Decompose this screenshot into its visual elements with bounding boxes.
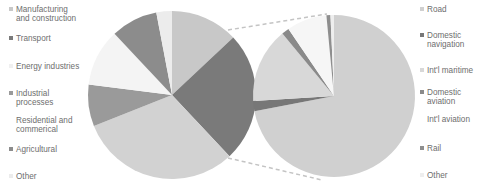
legend-item-other: Other <box>9 172 36 181</box>
transport-pie <box>253 15 415 177</box>
legend-item-energy-industries: Energy industries <box>9 62 79 71</box>
legend-item-other-transport: Other <box>420 171 447 180</box>
legend-swatch <box>420 173 424 177</box>
legend-label-line2: and construction <box>16 14 76 23</box>
legend-label-line2: navigation <box>427 40 464 49</box>
legend-label: Int'l maritime <box>427 66 473 75</box>
legend-label: Road <box>427 5 447 14</box>
legend-label: Industrial <box>16 89 49 98</box>
legend-swatch <box>9 91 13 95</box>
legend-item-industrial-processes: Industrialprocesses <box>9 89 53 107</box>
legend-item-domestic-navigation: Domesticnavigation <box>420 31 464 49</box>
legend-item-manufacturing: Manufacturingand construction <box>9 5 76 23</box>
legend-label: Rail <box>427 144 441 153</box>
legend-item-transport: Transport <box>9 34 51 43</box>
legend-label: Energy industries <box>16 62 79 71</box>
legend-item-intl-maritime: Int'l maritime <box>420 66 473 75</box>
legend-swatch <box>9 147 13 151</box>
legend-item-road: Road <box>420 5 447 14</box>
legend-label-line2: processes <box>16 98 53 107</box>
legend-swatch <box>9 118 13 122</box>
legend-label: Agricultural <box>16 145 57 154</box>
legend-label-line2: commerical <box>16 125 58 134</box>
legend-label: Transport <box>16 34 51 43</box>
legend-swatch <box>9 36 13 40</box>
legend-swatch <box>420 33 424 37</box>
legend-swatch <box>420 117 424 121</box>
legend-swatch <box>420 7 424 11</box>
legend-item-domestic-aviation: Domesticaviation <box>420 88 461 106</box>
legend-swatch <box>9 64 13 68</box>
legend-label: Int'l aviation <box>427 115 470 124</box>
legend-left: Manufacturingand construction Transport … <box>0 0 140 186</box>
legend-right: Road Domesticnavigation Int'l maritime D… <box>420 0 482 186</box>
legend-item-agricultural: Agricultural <box>9 145 57 154</box>
legend-label: Manufacturing <box>16 5 68 14</box>
legend-item-residential-commercial: Residential andcommerical <box>9 116 72 134</box>
legend-label: Other <box>16 172 36 181</box>
legend-swatch <box>420 68 424 72</box>
legend-item-intl-aviation: Int'l aviation <box>420 115 470 124</box>
legend-swatch <box>420 90 424 94</box>
legend-label: Domestic <box>427 88 461 97</box>
legend-label: Domestic <box>427 31 461 40</box>
legend-label: Other <box>427 171 447 180</box>
legend-item-rail: Rail <box>420 144 441 153</box>
legend-swatch <box>9 7 13 11</box>
legend-label-line2: aviation <box>427 97 455 106</box>
legend-swatch <box>420 146 424 150</box>
legend-swatch <box>9 174 13 178</box>
legend-label: Residential and <box>16 116 72 125</box>
